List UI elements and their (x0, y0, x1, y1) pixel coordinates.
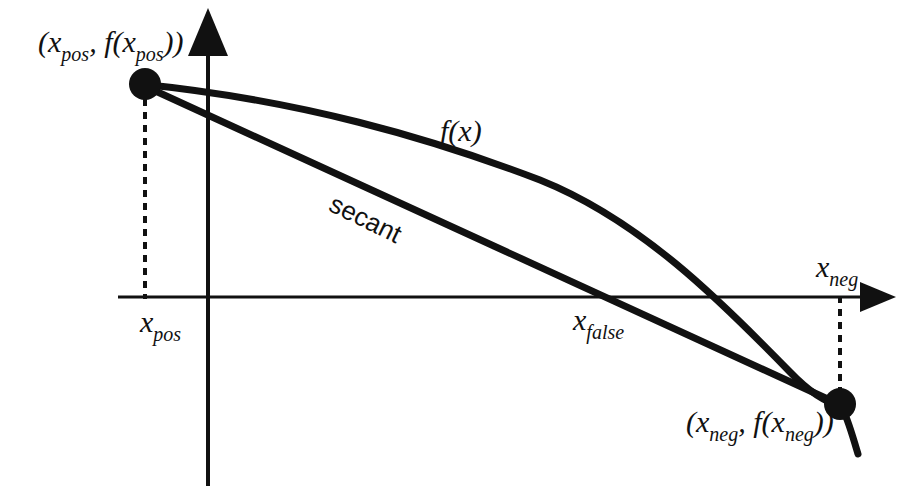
svg-text:xfalse: xfalse (572, 303, 624, 344)
axis-x-false-sub: false (586, 321, 624, 344)
label-function-fx: f(x) (440, 114, 482, 148)
axis-x-neg-sub: neg (829, 268, 858, 291)
label-point-x-pos: (xpos, f(xpos)) (38, 25, 184, 66)
lbl-neg-x-sub: neg (709, 423, 738, 446)
fn-var: x (457, 114, 472, 147)
lbl-neg-close: )) (812, 405, 834, 439)
lbl-neg-comma: , (738, 405, 753, 438)
axis-x-false-var: x (572, 303, 587, 336)
label-axis-x-neg: xneg (815, 250, 858, 291)
label-axis-x-pos: xpos (139, 305, 181, 346)
lbl-pos-x-sub: pos (59, 43, 89, 66)
axis-x-pos-sub: pos (151, 323, 181, 346)
svg-text:(xpos, f(xpos)): (xpos, f(xpos)) (38, 25, 184, 66)
lbl-neg-fx: x (771, 405, 786, 438)
fn-close: ) (470, 114, 482, 148)
lbl-neg-fx-sub: neg (785, 423, 814, 446)
svg-text:xneg: xneg (815, 250, 858, 291)
secant-line (138, 83, 843, 406)
svg-text:xpos: xpos (139, 305, 181, 346)
lbl-neg-x: x (695, 405, 710, 438)
point-x-pos-marker (129, 68, 161, 100)
label-point-x-neg: (xneg, f(xneg)) (686, 405, 834, 446)
diagram-canvas: (xpos, f(xpos)) (xneg, f(xneg)) xpos xne… (0, 0, 920, 486)
lbl-pos-close: )) (162, 25, 184, 59)
lbl-pos-fx: x (121, 25, 136, 58)
svg-text:(xneg, f(xneg)): (xneg, f(xneg)) (686, 405, 834, 446)
lbl-pos-comma: , (89, 25, 104, 58)
label-axis-x-false: xfalse (572, 303, 624, 344)
false-position-diagram: (xpos, f(xpos)) (xneg, f(xneg)) xpos xne… (0, 0, 920, 486)
svg-text:f(x): f(x) (440, 114, 482, 148)
lbl-pos-fx-sub: pos (134, 43, 164, 66)
axis-x-neg-var: x (815, 250, 830, 283)
function-curve (140, 84, 858, 454)
lbl-pos-x: x (47, 25, 62, 58)
axis-x-pos-var: x (139, 305, 154, 338)
